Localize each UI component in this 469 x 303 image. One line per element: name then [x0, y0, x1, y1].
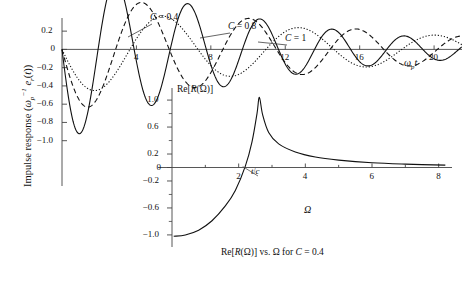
inset-title: Re[R(Ω)]	[177, 84, 213, 94]
main-x-tick-label: 8	[208, 52, 213, 62]
main-label-leader-lines	[128, 24, 287, 45]
main-y-tick-label: −0.6	[37, 98, 53, 108]
main-y-tick-label: −0.4	[37, 80, 53, 90]
main-y-tick-label: 0.2	[41, 25, 52, 35]
main-x-tick-label: 16	[355, 52, 364, 62]
inset-y-tick-label: 0	[156, 162, 161, 172]
main-y-tick-label: −0.2	[37, 62, 53, 72]
inset-y-tick-label: −1.0	[143, 229, 159, 239]
main-x-tick-label: 12	[280, 52, 289, 62]
curve-label-leader	[200, 33, 230, 38]
curve-label-0: C = 0.4	[150, 12, 178, 22]
inset-x-axis-label: Ω	[304, 204, 311, 215]
inset-axes	[158, 88, 452, 247]
inset-x-tick-label: 2	[236, 171, 241, 181]
curve-c-0-8	[62, 2, 462, 107]
inset-y-tick-label: 1.0	[147, 94, 158, 104]
inset-y-tick-label: −0.6	[143, 202, 159, 212]
main-x-tick-label: 20	[429, 52, 438, 62]
main-x-tick-label: 4	[134, 52, 139, 62]
inset-annotation-label: t/c	[251, 166, 260, 176]
curve-re-r-omega	[174, 97, 446, 236]
inset-y-tick-label: −0.2	[143, 175, 159, 185]
inset-plot	[158, 88, 452, 247]
figure-canvas	[0, 0, 469, 303]
main-y-tick-label: −1.0	[37, 135, 53, 145]
inset-y-tick-label: 0.2	[147, 148, 158, 158]
curve-label-leader	[128, 24, 152, 37]
curve-label-1: C = 0.8	[228, 21, 256, 31]
curve-label-2: C = 1	[285, 33, 306, 43]
curve-label-leader	[258, 42, 287, 45]
inset-caption: Re[R(Ω)] vs. Ω for C = 0.4	[221, 247, 324, 257]
inset-x-tick-label: 6	[370, 171, 375, 181]
main-y-tick-label: −0.8	[37, 116, 53, 126]
main-x-axis-label: ωpt	[404, 57, 417, 70]
inset-y-tick-label: 0.6	[147, 121, 158, 131]
inset-x-tick-label: 8	[436, 171, 441, 181]
main-y-tick-label: 0	[50, 43, 55, 53]
main-plot	[62, 0, 462, 186]
inset-y-tick-marks	[167, 100, 172, 235]
main-axes	[62, 18, 462, 186]
main-y-axis-label: Impulse response (ωp−1 er(t))	[20, 36, 36, 216]
inset-x-tick-label: 4	[303, 171, 308, 181]
